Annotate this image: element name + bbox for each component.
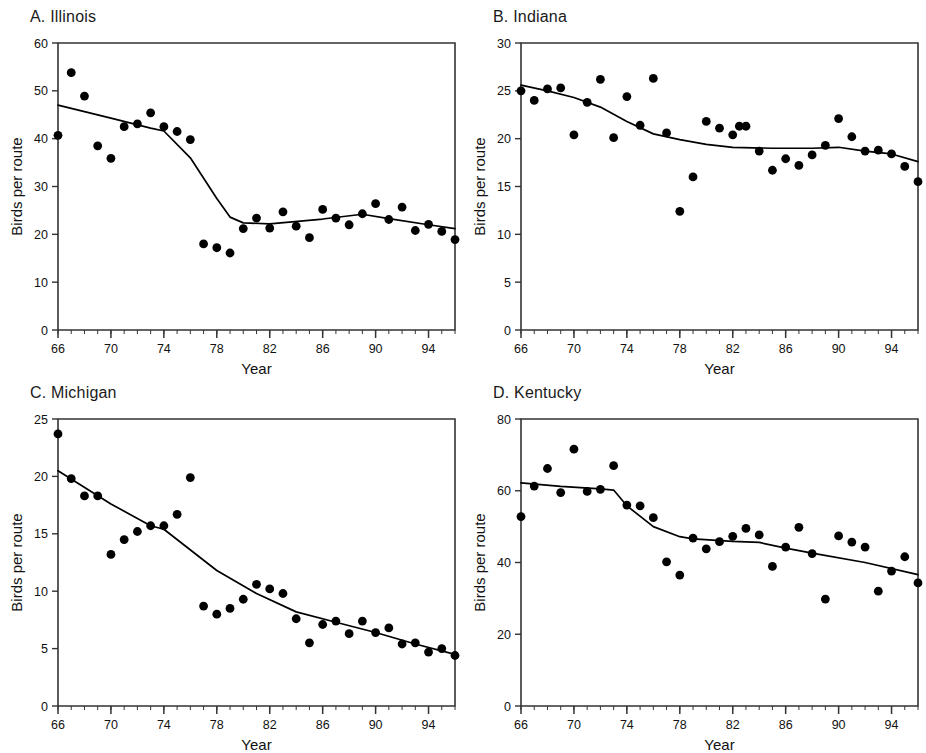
x-tick-label: 66	[51, 342, 65, 356]
data-point	[517, 512, 526, 521]
x-tick-label: 66	[514, 718, 528, 732]
data-point	[755, 147, 764, 156]
data-points	[54, 430, 460, 660]
data-point	[411, 226, 420, 235]
data-point	[900, 162, 909, 171]
data-point	[159, 521, 168, 530]
data-point	[424, 648, 433, 657]
data-point	[239, 224, 248, 233]
y-tick-label: 15	[34, 527, 48, 541]
data-point	[768, 166, 777, 175]
data-points	[517, 74, 923, 216]
data-point	[212, 243, 221, 252]
panel-a: A. Illinois01020304050606670747882869094…	[0, 0, 463, 376]
data-point	[808, 549, 817, 558]
x-tick-label: 94	[885, 718, 899, 732]
plot-area: 0204060806670747882869094Birds per route…	[463, 376, 926, 752]
data-point	[834, 532, 843, 541]
data-point	[239, 595, 248, 604]
data-point	[808, 151, 817, 160]
data-point	[186, 473, 195, 482]
data-point	[728, 130, 737, 139]
x-axis-title: Year	[241, 360, 271, 376]
x-tick-label: 86	[779, 718, 793, 732]
y-tick-label: 0	[41, 324, 48, 338]
data-point	[332, 617, 341, 626]
data-point	[675, 571, 684, 580]
data-point	[107, 154, 116, 163]
data-point	[186, 135, 195, 144]
y-tick-label: 10	[34, 276, 48, 290]
plot-frame	[521, 43, 918, 330]
data-point	[583, 487, 592, 496]
data-point	[279, 207, 288, 216]
data-point	[159, 122, 168, 131]
plot-frame	[58, 43, 455, 330]
data-point	[173, 510, 182, 519]
data-point	[861, 147, 870, 156]
x-tick-label: 70	[104, 718, 118, 732]
panel-d: D. Kentucky0204060806670747882869094Bird…	[463, 376, 926, 752]
data-point	[781, 543, 790, 552]
data-point	[345, 629, 354, 638]
data-point	[384, 624, 393, 633]
data-point	[847, 538, 856, 547]
x-tick-label: 90	[832, 718, 846, 732]
y-tick-label: 60	[497, 484, 511, 498]
x-tick-label: 70	[567, 342, 581, 356]
data-point	[755, 530, 764, 539]
y-tick-label: 20	[497, 628, 511, 642]
data-point	[265, 224, 274, 233]
y-tick-label: 25	[34, 413, 48, 427]
x-tick-label: 94	[422, 342, 436, 356]
data-point	[622, 92, 631, 101]
y-tick-label: 60	[34, 37, 48, 51]
plot-area: 05101520256670747882869094Birds per rout…	[0, 376, 463, 752]
y-tick-label: 0	[41, 700, 48, 714]
x-tick-label: 74	[157, 342, 171, 356]
data-point	[305, 638, 314, 647]
data-point	[596, 485, 605, 494]
x-tick-label: 74	[157, 718, 171, 732]
y-tick-label: 20	[497, 132, 511, 146]
data-point	[80, 92, 89, 101]
data-point	[451, 651, 460, 660]
data-point	[67, 68, 76, 77]
data-point	[67, 474, 76, 483]
data-point	[411, 638, 420, 647]
data-point	[636, 501, 645, 510]
y-axis-title: Birds per route	[8, 137, 25, 235]
y-tick-label: 50	[34, 84, 48, 98]
y-tick-label: 0	[504, 700, 511, 714]
x-tick-label: 78	[210, 718, 224, 732]
x-tick-label: 86	[316, 342, 330, 356]
data-point	[768, 562, 777, 571]
data-point	[702, 544, 711, 553]
y-axis-title: Birds per route	[8, 513, 25, 611]
data-point	[199, 240, 208, 249]
y-axis-title: Birds per route	[471, 513, 488, 611]
data-point	[345, 220, 354, 229]
x-tick-label: 94	[422, 718, 436, 732]
data-point	[834, 114, 843, 123]
data-point	[133, 119, 142, 128]
data-point	[689, 173, 698, 182]
x-axis-title: Year	[241, 736, 271, 752]
data-point	[265, 585, 274, 594]
x-tick-label: 70	[567, 718, 581, 732]
data-point	[279, 589, 288, 598]
data-point	[292, 222, 301, 231]
data-point	[318, 620, 327, 629]
data-point	[199, 602, 208, 611]
data-point	[556, 84, 565, 93]
data-point	[437, 644, 446, 653]
trend-line	[58, 471, 455, 655]
data-point	[398, 640, 407, 649]
data-point	[609, 133, 618, 142]
data-point	[570, 445, 579, 454]
data-point	[384, 215, 393, 224]
data-point	[530, 96, 539, 105]
y-axis-title: Birds per route	[471, 137, 488, 235]
x-tick-label: 66	[514, 342, 528, 356]
x-tick-label: 66	[51, 718, 65, 732]
